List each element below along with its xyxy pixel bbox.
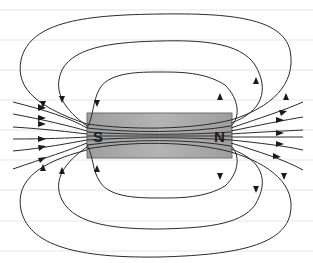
magnet-field-diagram: S N <box>0 0 313 263</box>
south-pole-label: S <box>93 128 103 145</box>
lower-field-loops <box>20 145 291 257</box>
left-field-lines <box>13 102 87 169</box>
north-pole-label: N <box>214 128 225 145</box>
upper-field-loops <box>20 14 291 128</box>
